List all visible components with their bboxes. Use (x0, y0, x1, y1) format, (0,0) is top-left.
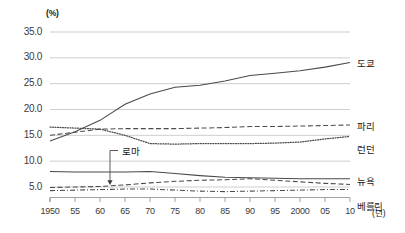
chart-canvas (0, 0, 405, 233)
annotation-arrow-0 (107, 151, 118, 185)
y-axis-tick-label: 30.0 (8, 51, 42, 62)
series-label-베를린: 베를린 (357, 199, 383, 213)
x-axis-tick-label: 60 (86, 206, 114, 216)
x-axis-tick-label: 1950 (36, 206, 64, 216)
y-axis-tick-label: 10.0 (8, 155, 42, 166)
y-axis-tick-label: 5.0 (8, 181, 42, 192)
y-axis-tick-label: 15.0 (8, 129, 42, 140)
x-axis-tick-label: 95 (261, 206, 289, 216)
series-label-런던: 런던 (357, 142, 374, 156)
series-line-4 (50, 179, 350, 188)
x-axis-tick-label: 65 (111, 206, 139, 216)
series-line-3 (50, 172, 350, 179)
series-label-뉴욕: 뉴욕 (357, 174, 374, 188)
y-axis-tick-label: 35.0 (8, 26, 42, 37)
x-axis-tick-label: 85 (211, 206, 239, 216)
x-axis-tick-label: 70 (136, 206, 164, 216)
series-line-5 (50, 189, 350, 192)
x-axis-tick-label: 05 (311, 206, 339, 216)
x-axis-tick-label: 2000 (286, 206, 314, 216)
y-axis-tick-label: 25.0 (8, 77, 42, 88)
x-axis-tick-label: 90 (236, 206, 264, 216)
x-axis-tick-label: 55 (61, 206, 89, 216)
x-axis-tick-label: 75 (161, 206, 189, 216)
x-axis-tick-label: 80 (186, 206, 214, 216)
series-line-1 (50, 125, 350, 135)
y-axis-tick-label: 20.0 (8, 103, 42, 114)
series-label-파리: 파리 (357, 119, 374, 133)
annotation-label-roma: 로마 (122, 144, 139, 158)
series-label-도쿄: 도쿄 (357, 56, 374, 70)
line-chart: (%) (년) 35.030.025.020.015.010.05.0 1950… (0, 0, 405, 233)
